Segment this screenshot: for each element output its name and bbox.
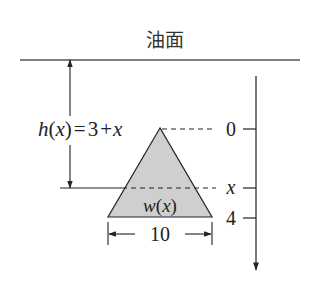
axis-label-4: 4 <box>226 207 236 229</box>
width-func-symbol: w <box>143 195 156 216</box>
depth-var: x <box>112 117 123 141</box>
axis-label-0: 0 <box>226 118 236 140</box>
oil-surface-title: 油面 <box>146 29 184 51</box>
dimension-label: 10 <box>150 223 170 245</box>
depth-const: 3 <box>88 117 99 141</box>
diagram-canvas: 油面 h(x)=3+x w(x) 10 0 x 4 <box>0 0 316 290</box>
depth-func-symbol: h <box>38 117 49 141</box>
depth-plus: + <box>100 117 112 141</box>
depth-equals: = <box>74 117 86 141</box>
width-label: w(x) <box>143 195 177 217</box>
axis-label-x: x <box>226 176 236 198</box>
depth-label: h(x)=3+x <box>38 117 123 141</box>
